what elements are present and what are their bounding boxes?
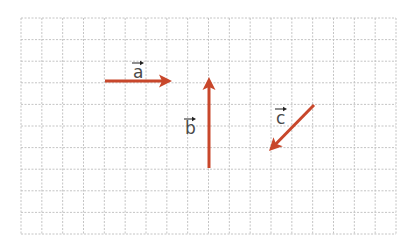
vector-b-label: b [185,118,196,138]
vector-a-label: a [133,62,143,82]
vectors: a b c [105,61,314,168]
vector-b: b [184,77,216,168]
vector-diagram: a b c [0,0,417,244]
vector-c-label: c [276,108,285,128]
vector-a: a [105,61,172,88]
